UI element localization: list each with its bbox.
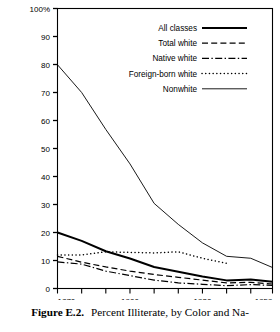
legend-label: Foreign-born white [129, 70, 198, 79]
y-axis-tick-label: 100% [30, 5, 50, 14]
legend-label: Total white [158, 39, 197, 48]
legend-label: Nonwhite [163, 85, 198, 94]
x-axis-tick-label: 1870 [58, 297, 76, 301]
series-line-foreign-born-white [58, 252, 227, 263]
y-axis-tick-label: 0 [46, 285, 51, 294]
y-axis-ticks [53, 9, 58, 289]
x-axis-tick-label: 1959 [255, 297, 273, 301]
chart-legend: All classesTotal whiteNative whiteForeig… [129, 24, 247, 94]
x-axis-ticks [58, 289, 273, 294]
figure-caption: Figure E.2. Percent Illiterate, by Color… [0, 306, 280, 332]
series-line-nonwhite [58, 65, 273, 268]
y-axis-tick-label: 30 [41, 201, 50, 210]
y-axis-tick-label: 80 [41, 61, 50, 70]
plot-frame [58, 9, 273, 289]
illiteracy-line-chart: 0102030405060708090100% 1870190019301959… [0, 0, 280, 300]
figure-caption-text: Percent Illiterate, by Color and Na- [91, 306, 249, 318]
x-axis-tick-labels: 1870190019301959 [58, 297, 274, 301]
y-axis-tick-label: 90 [41, 33, 50, 42]
y-axis-tick-label: 40 [41, 173, 50, 182]
legend-label: All classes [158, 24, 197, 33]
y-axis-tick-label: 10 [41, 257, 50, 266]
y-axis-tick-labels: 0102030405060708090100% [30, 5, 51, 294]
data-series-group [58, 65, 273, 286]
y-axis-tick-label: 70 [41, 89, 50, 98]
y-axis-tick-label: 50 [41, 145, 50, 154]
figure-container: 0102030405060708090100% 1870190019301959… [0, 0, 280, 332]
y-axis-tick-label: 20 [41, 229, 50, 238]
x-axis-tick-label: 1930 [194, 297, 212, 301]
figure-caption-label: Figure E.2. [31, 306, 84, 318]
x-axis-tick-label: 1900 [121, 297, 139, 301]
legend-label: Native white [152, 54, 197, 63]
y-axis-tick-label: 60 [41, 117, 50, 126]
